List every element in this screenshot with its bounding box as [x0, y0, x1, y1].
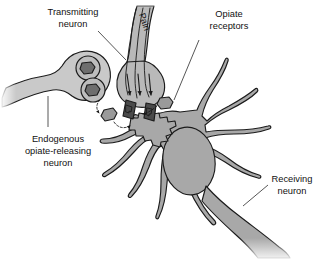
leader-opiate-receptors [174, 40, 199, 100]
transmitting-neuron-terminal [117, 61, 165, 107]
label-endogenous-neuron: Endogenous opiate-releasing neuron [25, 134, 91, 168]
endogenous-opiate-releasing-neuron [0, 51, 110, 112]
endogenous-left-fade [0, 78, 16, 112]
opiate-receptors-label-line1: Opiate [215, 9, 242, 19]
endogenous-neuron-label-line1: Endogenous [32, 134, 85, 144]
endogenous-neuron-label-line3: neuron [44, 158, 73, 168]
endogenous-neuron-label-line2: opiate-releasing [25, 146, 91, 156]
leader-receiving-neuron [243, 185, 268, 206]
opiate-receptors-label-line2: receptors [210, 21, 249, 31]
label-opiate-receptors: Opiate receptors [210, 9, 249, 31]
label-transmitting-neuron: Transmitting neuron [48, 7, 99, 29]
neuron-diagram-svg: Transmitting neuron Pain Opiate receptor… [0, 0, 329, 262]
figure-root: Transmitting neuron Pain Opiate receptor… [0, 0, 329, 262]
axon-bottom-fade [230, 238, 329, 262]
neurotransmitter-bar-left [123, 100, 136, 119]
receiving-neuron-label-line2: neuron [278, 186, 307, 196]
transmitting-neuron-label-line1: Transmitting [48, 7, 99, 17]
opiate-molecule-lower [85, 84, 100, 96]
transmitting-neuron-label-line2: neuron [59, 19, 88, 29]
leader-transmitting-neuron [98, 31, 126, 60]
neurotransmitter-bar-right [144, 103, 156, 121]
receiving-neuron-label-line1: Receiving [272, 174, 313, 184]
free-opiate-molecule-1 [101, 108, 117, 121]
transmitting-axon-top-fade [120, 0, 170, 8]
free-opiate-molecule-2 [157, 97, 173, 109]
label-receiving-neuron: Receiving neuron [272, 174, 313, 196]
opiate-molecule-upper [80, 62, 95, 74]
diffusion-path-2 [114, 122, 130, 128]
diffusion-path-1 [97, 100, 100, 113]
